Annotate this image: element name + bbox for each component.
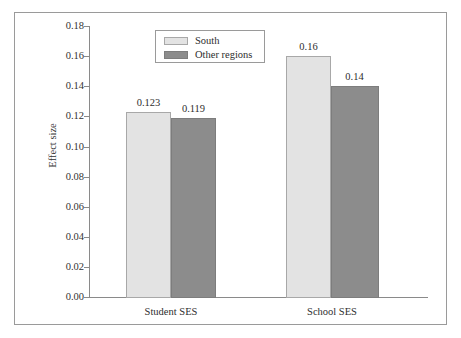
y-tick-mark (84, 116, 90, 117)
legend-swatch-other-regions (164, 51, 188, 59)
y-tick-group: 0.10 (32, 147, 84, 148)
bar-school-ses-other-regions (331, 86, 379, 298)
y-tick-group: 0.02 (32, 267, 84, 268)
y-tick-label: 0.06 (38, 202, 84, 213)
legend-item-other-regions: Other regions (164, 49, 264, 61)
y-tick-mark (84, 26, 90, 27)
y-tick-group: 0.00 (32, 297, 84, 298)
y-axis-line (89, 26, 90, 297)
y-tick-mark (84, 237, 90, 238)
category-label-school-ses: School SES (272, 307, 392, 318)
bar-value-school-ses-other-regions: 0.14 (317, 72, 392, 83)
bar-student-ses-other-regions (171, 118, 216, 298)
y-tick-label: 0.10 (38, 142, 84, 153)
y-tick-label: 0.18 (38, 21, 84, 32)
bar-value-school-ses-south: 0.16 (271, 42, 346, 53)
legend-label-other-regions: Other regions (195, 50, 252, 61)
figure: Effect size 0.18 0.16 0.14 0.12 0.10 0.0… (0, 0, 461, 338)
y-tick-group: 0.04 (32, 237, 84, 238)
legend-swatch-south (164, 37, 188, 45)
y-tick-group: 0.14 (32, 86, 84, 87)
category-label-student-ses: Student SES (111, 307, 231, 318)
bar-school-ses-south (286, 56, 331, 298)
y-tick-mark (84, 147, 90, 148)
y-tick-label: 0.14 (38, 81, 84, 92)
y-tick-group: 0.06 (32, 207, 84, 208)
y-tick-label: 0.08 (38, 172, 84, 183)
y-tick-mark (84, 297, 90, 298)
y-tick-label: 0.02 (38, 262, 84, 273)
bar-student-ses-south (126, 112, 171, 298)
y-tick-mark (84, 207, 90, 208)
legend: South Other regions (155, 30, 265, 63)
y-tick-label: 0.16 (38, 51, 84, 62)
y-tick-label: 0.04 (38, 232, 84, 243)
legend-item-south: South (164, 35, 264, 47)
y-tick-mark (84, 177, 90, 178)
y-tick-label: 0.12 (38, 111, 84, 122)
y-tick-label: 0.00 (38, 292, 84, 303)
y-tick-group: 0.16 (32, 56, 84, 57)
y-tick-mark (84, 267, 90, 268)
y-tick-group: 0.18 (32, 26, 84, 27)
y-tick-group: 0.08 (32, 177, 84, 178)
y-tick-mark (84, 86, 90, 87)
bar-value-student-ses-other-regions: 0.119 (156, 104, 231, 115)
y-tick-group: 0.12 (32, 116, 84, 117)
y-tick-mark (84, 56, 90, 57)
legend-label-south: South (195, 36, 220, 47)
